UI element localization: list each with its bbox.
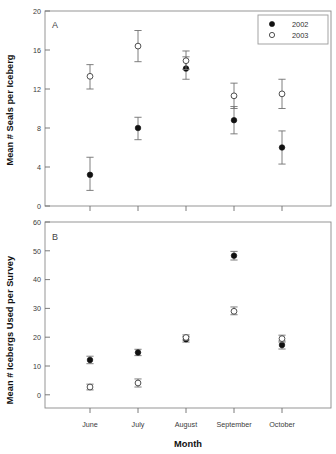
panel-b-datapoints (86, 251, 285, 390)
datapoint-2002-June (86, 157, 93, 190)
panel-b-xticklabels: June July August September October (82, 420, 295, 429)
datapoint-2003-September (230, 307, 237, 315)
chart-svg: Mean # Seals per Iceberg 20 16 12 8 4 0 (0, 0, 336, 454)
datapoint-2003-August (182, 335, 189, 341)
panel-a: Mean # Seals per Iceberg 20 16 12 8 4 0 (5, 7, 331, 211)
panel-b-frame (45, 222, 331, 408)
panel-a-yticks: 20 16 12 8 4 0 (33, 7, 50, 211)
datapoint-2003-June (86, 65, 93, 89)
figure-container: Mean # Seals per Iceberg 20 16 12 8 4 0 (0, 0, 336, 454)
panel-b-ylabel: Mean # Icebergs Used per Survey (5, 255, 15, 404)
datapoint-2002-October (278, 131, 285, 164)
datapoint-2002-July (134, 349, 141, 355)
datapoint-2003-October (278, 79, 285, 108)
panel-a-xticks (90, 206, 282, 211)
xtick-label-june: June (82, 420, 98, 429)
panel-b-ytick-50: 50 (33, 247, 41, 256)
xtick-label-september: September (216, 420, 252, 429)
panel-b-ytick-30: 30 (33, 304, 41, 313)
panel-b-ytick-0: 0 (37, 391, 41, 400)
panel-a-ytick-4: 4 (37, 163, 41, 172)
datapoint-2003-June (86, 384, 93, 390)
panel-b-ytick-60: 60 (33, 218, 41, 227)
panel-b-ytick-20: 20 (33, 333, 41, 342)
xtick-label-july: July (132, 420, 145, 429)
panel-a-ytick-12: 12 (33, 85, 41, 94)
panel-b-ytick-10: 10 (33, 362, 41, 371)
datapoint-2003-July (134, 31, 141, 62)
panel-b-xlabel: Month (174, 439, 202, 449)
panel-a-datapoints (86, 31, 285, 191)
datapoint-2002-June (86, 356, 93, 363)
panel-a-ytick-20: 20 (33, 7, 41, 16)
panel-a-label: A (52, 20, 58, 30)
panel-a-ylabel: Mean # Seals per Iceberg (5, 54, 15, 165)
xtick-label-august: August (175, 420, 197, 429)
panel-b-xticks (90, 408, 282, 413)
panel-a-ytick-0: 0 (37, 202, 41, 211)
datapoint-2003-July (134, 379, 141, 387)
panel-a-ytick-16: 16 (33, 46, 41, 55)
panel-b-yticks: 60 50 40 30 20 10 0 (33, 218, 50, 400)
panel-b: Mean # Icebergs Used per Survey 60 50 40… (5, 218, 331, 449)
panel-b-ytick-40: 40 (33, 275, 41, 284)
legend-label-2002: 2002 (292, 20, 308, 29)
legend-label-2003: 2003 (292, 31, 308, 40)
datapoint-2002-September (230, 251, 237, 260)
panel-a-ytick-8: 8 (37, 124, 41, 133)
datapoint-2002-July (134, 117, 141, 139)
datapoint-2003-September (230, 83, 237, 108)
panel-b-label: B (52, 232, 58, 242)
xtick-label-october: October (269, 420, 295, 429)
legend-marker-2002 (269, 21, 274, 26)
legend[interactable]: 2002 2003 (258, 15, 328, 44)
datapoint-2002-September (230, 107, 237, 134)
legend-marker-2003 (269, 32, 274, 37)
